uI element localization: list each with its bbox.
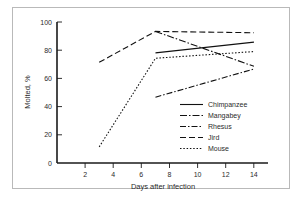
y-tick-label-20: 20 [44, 131, 52, 138]
y-tick-label-60: 60 [44, 75, 52, 82]
legend-item-mouse: Mouse [180, 145, 229, 152]
figure-container: 100 80 60 40 20 0 2 4 6 8 10 12 14 Days … [0, 0, 302, 202]
y-tick-label-100: 100 [40, 19, 52, 26]
x-tick-label-8: 8 [168, 171, 172, 178]
series-line-mouse [99, 52, 254, 147]
x-tick-label-10: 10 [194, 171, 202, 178]
legend-label-jird: Jird [208, 134, 219, 141]
series-line-mangabey [155, 31, 253, 66]
series-line-rhesus [155, 69, 253, 97]
legend-item-chimpanzee: Chimpanzee [180, 101, 247, 109]
y-axis-title: Molted, % [23, 75, 32, 109]
legend-item-rhesus: Rhesus [180, 123, 232, 130]
y-tick-label-40: 40 [44, 103, 52, 110]
x-tick-label-12: 12 [222, 171, 230, 178]
legend-label-chimpanzee: Chimpanzee [208, 101, 247, 109]
x-tick-label-6: 6 [139, 171, 143, 178]
x-tick-label-4: 4 [111, 171, 115, 178]
x-tick-label-2: 2 [83, 171, 87, 178]
legend-item-mangabey: Mangabey [180, 112, 241, 120]
series-line-chimpanzee [155, 42, 253, 53]
legend-label-mangabey: Mangabey [208, 112, 241, 120]
line-chart: 100 80 60 40 20 0 2 4 6 8 10 12 14 Days … [0, 0, 302, 202]
x-tick-label-14: 14 [250, 171, 258, 178]
legend-item-jird: Jird [180, 134, 219, 141]
legend-label-mouse: Mouse [208, 145, 229, 152]
y-tick-label-80: 80 [44, 47, 52, 54]
legend-label-rhesus: Rhesus [208, 123, 232, 130]
chart-legend: Chimpanzee Mangabey Rhesus Jird Mouse [180, 101, 247, 152]
y-tick-label-0: 0 [48, 160, 52, 167]
x-axis-title: Days after infection [131, 182, 195, 191]
